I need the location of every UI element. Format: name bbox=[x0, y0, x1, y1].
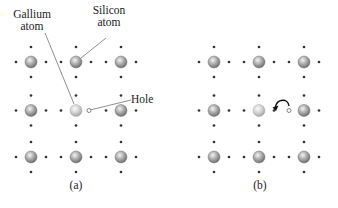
silicon-atom bbox=[70, 56, 82, 68]
electron-dot bbox=[105, 109, 108, 112]
electron-dot bbox=[15, 156, 18, 159]
electron-dot bbox=[303, 141, 306, 144]
electron-dot bbox=[213, 171, 216, 174]
electron-dot bbox=[288, 156, 291, 159]
electron-dot bbox=[15, 61, 18, 64]
electron-dot bbox=[228, 109, 231, 112]
electron-dot bbox=[213, 76, 216, 79]
electron-dot bbox=[228, 61, 231, 64]
electron-dot bbox=[105, 156, 108, 159]
electron-dot bbox=[75, 171, 78, 174]
electron-dot bbox=[303, 76, 306, 79]
electron-dot bbox=[30, 124, 33, 127]
electron-dot bbox=[135, 156, 138, 159]
silicon-atom bbox=[298, 151, 310, 163]
caption-b: (b) bbox=[248, 179, 272, 191]
silicon-label-line1: Silicon bbox=[87, 4, 131, 16]
electron-dot bbox=[258, 94, 261, 97]
electron-dot bbox=[258, 171, 261, 174]
silicon-atom bbox=[253, 151, 265, 163]
electron-dot bbox=[318, 61, 321, 64]
electron-dot bbox=[303, 46, 306, 49]
electron-dot bbox=[243, 156, 246, 159]
gallium-label-line2: atom bbox=[10, 20, 54, 32]
silicon-atom bbox=[115, 105, 127, 117]
hole-marker-b bbox=[287, 109, 291, 113]
caption-a: (a) bbox=[64, 179, 88, 191]
electron-dot bbox=[243, 109, 246, 112]
silicon-label: Silicon atom bbox=[87, 4, 131, 28]
electron-dot bbox=[45, 156, 48, 159]
electron-dot bbox=[273, 156, 276, 159]
electron-dot bbox=[30, 94, 33, 97]
gallium-label-line1: Gallium bbox=[10, 8, 54, 20]
electron-dot bbox=[75, 141, 78, 144]
silicon-atom bbox=[115, 151, 127, 163]
panel-b bbox=[198, 46, 321, 174]
electron-dot bbox=[213, 94, 216, 97]
hole-marker-a bbox=[87, 109, 91, 113]
electron-dot bbox=[213, 46, 216, 49]
electron-dot bbox=[30, 46, 33, 49]
silicon-atom bbox=[25, 151, 37, 163]
electron-dot bbox=[75, 94, 78, 97]
electron-dot bbox=[213, 141, 216, 144]
electron-dot bbox=[120, 124, 123, 127]
electron-dot bbox=[198, 156, 201, 159]
electron-dot bbox=[258, 46, 261, 49]
electron-dot bbox=[60, 156, 63, 159]
gallium-atom bbox=[70, 105, 82, 117]
electron-dot bbox=[198, 109, 201, 112]
silicon-atom bbox=[298, 56, 310, 68]
silicon-label-line2: atom bbox=[87, 16, 131, 28]
electron-dot bbox=[45, 109, 48, 112]
silicon-atom bbox=[70, 151, 82, 163]
electron-dot bbox=[228, 156, 231, 159]
electron-dot bbox=[120, 94, 123, 97]
silicon-leader-line bbox=[81, 38, 106, 58]
electron-dot bbox=[303, 171, 306, 174]
electron-dot bbox=[45, 61, 48, 64]
electron-dot bbox=[198, 61, 201, 64]
gallium-atom bbox=[253, 105, 265, 117]
electron-dot bbox=[75, 46, 78, 49]
silicon-atom bbox=[208, 56, 220, 68]
gallium-leader-line bbox=[45, 33, 74, 104]
silicon-atom bbox=[208, 105, 220, 117]
silicon-atom bbox=[208, 151, 220, 163]
electron-dot bbox=[135, 109, 138, 112]
electron-dot bbox=[90, 156, 93, 159]
silicon-atom bbox=[25, 56, 37, 68]
electron-dot bbox=[15, 109, 18, 112]
electron-dot bbox=[288, 61, 291, 64]
electron-dot bbox=[30, 171, 33, 174]
electron-dot bbox=[120, 76, 123, 79]
electron-dot bbox=[75, 76, 78, 79]
electron-dot bbox=[120, 141, 123, 144]
electron-dot bbox=[258, 76, 261, 79]
electron-dot bbox=[120, 171, 123, 174]
electron-dot bbox=[135, 61, 138, 64]
electron-dot bbox=[60, 109, 63, 112]
silicon-atom bbox=[253, 56, 265, 68]
hole-label: Hole bbox=[131, 93, 153, 105]
electron-dot bbox=[30, 76, 33, 79]
electron-dot bbox=[120, 46, 123, 49]
electron-dot bbox=[303, 124, 306, 127]
silicon-atom bbox=[115, 56, 127, 68]
silicon-atom bbox=[25, 105, 37, 117]
gallium-label: Gallium atom bbox=[10, 8, 54, 32]
electron-dot bbox=[273, 61, 276, 64]
electron-dot bbox=[303, 94, 306, 97]
silicon-atom bbox=[298, 105, 310, 117]
electron-dot bbox=[258, 124, 261, 127]
electron-dot bbox=[318, 109, 321, 112]
electron-dot bbox=[213, 124, 216, 127]
electron-dot bbox=[60, 61, 63, 64]
electron-dot bbox=[243, 61, 246, 64]
panel-a bbox=[15, 46, 138, 174]
electron-dot bbox=[105, 61, 108, 64]
electron-dot bbox=[30, 141, 33, 144]
electron-dot bbox=[318, 156, 321, 159]
electron-dot bbox=[90, 61, 93, 64]
